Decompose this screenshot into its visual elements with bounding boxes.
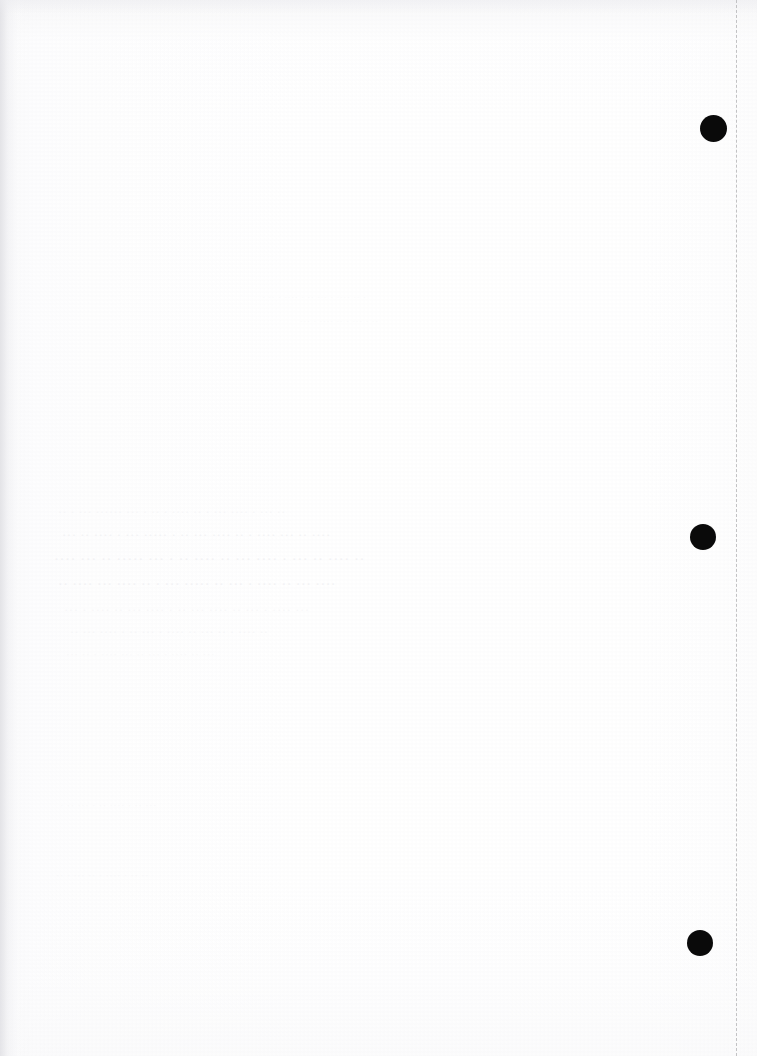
paper-background bbox=[0, 0, 757, 1056]
scanned-page: · ·· · ···· · ·· ··· · ···· ·· ···· · ··… bbox=[0, 0, 757, 1056]
punch-mark-middle bbox=[690, 524, 716, 550]
trim-guide-dashed-line bbox=[736, 0, 737, 1056]
punch-mark-top bbox=[700, 115, 727, 142]
punch-mark-bottom bbox=[687, 930, 713, 956]
